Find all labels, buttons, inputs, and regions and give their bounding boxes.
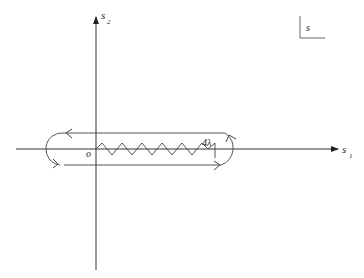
branch-point-label: 4λ [202,137,212,148]
branch-cut [96,143,215,158]
plane-label: s [306,22,310,33]
contour-diagram: s 2 s 1 o 4λ s [0,0,364,278]
origin-label: o [86,148,91,159]
plane-indicator: s [300,16,325,38]
vertical-axis-subscript: 2 [107,18,111,26]
horizontal-axis-subscript: 1 [349,152,353,160]
horizontal-axis-label: s [342,143,346,155]
vertical-axis-label: s [101,9,105,21]
